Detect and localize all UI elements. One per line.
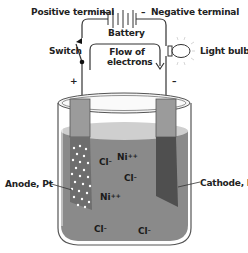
light-bulb-label: Light bulb <box>200 46 248 56</box>
flow-line-1: Flow of <box>107 47 147 57</box>
cathode-electrode <box>156 99 178 207</box>
anode-label: Anode, Pt <box>5 179 53 189</box>
battery-label: Battery <box>108 28 145 38</box>
cathode-label: Cathode, Pt <box>200 178 248 188</box>
ion-ni-2: Ni++ <box>100 193 121 202</box>
minus-sign: – <box>141 7 145 17</box>
ion-cl-1: Cl– <box>99 158 112 167</box>
switch-label: Switch <box>49 46 82 56</box>
ion-cl-2: Cl– <box>124 174 137 183</box>
ion-ni-1: Ni++ <box>117 153 138 162</box>
anode-electrode <box>70 99 92 210</box>
ion-cl-3: Cl– <box>94 225 107 234</box>
ion-cl-4: Cl– <box>138 227 151 236</box>
light-bulb-icon <box>168 37 195 65</box>
plus-sign: + <box>100 7 107 17</box>
flow-of-electrons-label: Flow of electrons <box>107 47 147 67</box>
right-minus-sign: – <box>172 76 176 86</box>
left-plus-sign: + <box>70 76 77 86</box>
negative-terminal-label: Negative terminal <box>151 7 239 17</box>
flow-line-2: electrons <box>107 57 147 67</box>
